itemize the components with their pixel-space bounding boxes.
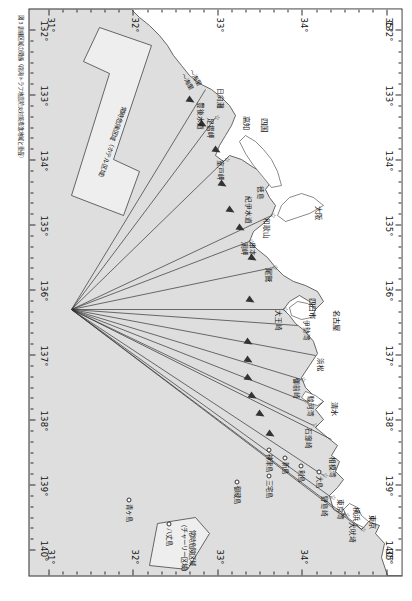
longitude-label: 136° (383, 280, 393, 301)
island-label: 新島 (280, 461, 289, 473)
longitude-label: 139° (38, 475, 48, 496)
longitude-tick-major (395, 549, 401, 550)
latitude-tick-minor (76, 571, 77, 574)
longitude-tick-minor (30, 452, 33, 453)
longitude-label: 136° (38, 280, 48, 301)
latitude-label: 33° (214, 549, 224, 564)
latitude-label: 32° (130, 549, 140, 564)
geographic-feature-label: 御前崎 (291, 377, 301, 398)
city-label: 横浜 (351, 506, 361, 520)
latitude-tick-minor (118, 9, 119, 12)
longitude-tick-minor (398, 278, 401, 279)
route-node-marker: ☆ (270, 264, 277, 270)
charlie-zone-label: 常時危険区域 （チャーリー区域） (179, 515, 195, 576)
longitude-tick-minor (30, 517, 33, 518)
longitude-tick-minor (30, 148, 33, 149)
latitude-tick-minor (203, 9, 204, 12)
island-marker (266, 473, 271, 478)
charlie-zone-line2: （チャーリー区域） (179, 515, 187, 576)
island-marker (266, 447, 271, 452)
latitude-tick-major (217, 569, 218, 575)
latitude-tick-minor (287, 9, 288, 12)
longitude-tick-minor (30, 332, 33, 333)
latitude-tick-minor (344, 571, 345, 574)
geographic-feature-label: 東京湾 (335, 498, 345, 519)
longitude-tick-minor (398, 430, 401, 431)
longitude-tick-minor (398, 495, 401, 496)
latitude-tick-minor (358, 571, 359, 574)
island-label: 青ヶ島 (124, 503, 133, 521)
longitude-tick-minor (398, 462, 401, 463)
latitude-tick-minor (104, 9, 105, 12)
latitude-tick-minor (118, 571, 119, 574)
latitude-tick-minor (90, 571, 91, 574)
city-label: 東京 (367, 514, 377, 528)
longitude-tick-minor (30, 278, 33, 279)
latitude-tick-minor (316, 9, 317, 12)
latitude-tick-major (386, 569, 387, 575)
longitude-tick-minor (30, 506, 33, 507)
longitude-label: 137° (38, 345, 48, 366)
latitude-label: 33° (214, 17, 224, 32)
longitude-tick-major (29, 549, 35, 550)
route-node-marker: ☆ (358, 526, 365, 532)
geographic-feature-label: 石廊崎 (303, 427, 313, 448)
longitude-tick-major (29, 224, 35, 225)
latitude-label: 34° (299, 549, 309, 564)
city-label: 大阪 (313, 205, 323, 219)
latitude-tick-major (133, 569, 134, 575)
longitude-label: 134° (38, 150, 48, 171)
longitude-tick-minor (30, 441, 33, 442)
longitude-tick-minor (30, 376, 33, 377)
longitude-tick-major (395, 484, 401, 485)
longitude-label: 133° (38, 85, 48, 106)
longitude-tick-minor (30, 527, 33, 528)
longitude-tick-minor (398, 40, 401, 41)
longitude-tick-minor (30, 397, 33, 398)
latitude-tick-minor (245, 571, 246, 574)
longitude-tick-minor (398, 300, 401, 301)
longitude-tick-minor (398, 473, 401, 474)
longitude-label: 133° (383, 85, 393, 106)
longitude-tick-minor (398, 408, 401, 409)
island-marker (166, 521, 171, 526)
latitude-tick-major (217, 9, 218, 15)
longitude-tick-minor (30, 72, 33, 73)
longitude-tick-minor (30, 408, 33, 409)
longitude-tick-minor (398, 235, 401, 236)
charlie-zone-line1: 常時危険区域 (187, 515, 195, 576)
city-label: 四国 (259, 117, 269, 131)
longitude-tick-minor (30, 365, 33, 366)
latitude-tick-major (386, 9, 387, 15)
longitude-tick-minor (398, 72, 401, 73)
latitude-tick-major (133, 9, 134, 15)
longitude-tick-minor (398, 170, 401, 171)
geographic-feature-label: 徳島 (255, 185, 265, 199)
longitude-tick-minor (398, 246, 401, 247)
longitude-tick-minor (398, 365, 401, 366)
geographic-feature-label: 室戸岬 (215, 159, 225, 180)
island-label: 三宅島 (264, 479, 273, 497)
longitude-tick-minor (30, 213, 33, 214)
longitude-tick-minor (398, 148, 401, 149)
latitude-tick-minor (259, 9, 260, 12)
longitude-label: 138° (383, 410, 393, 431)
longitude-tick-minor (30, 246, 33, 247)
latitude-tick-minor (203, 571, 204, 574)
latitude-tick-minor (344, 9, 345, 12)
longitude-tick-minor (398, 343, 401, 344)
geographic-feature-label: 野島崎 (319, 495, 329, 516)
island-label: 神津島 (264, 453, 273, 471)
geographic-feature-label: 相模湾 (327, 456, 337, 477)
latitude-tick-minor (175, 571, 176, 574)
longitude-tick-major (395, 289, 401, 290)
geographic-feature-label: 日向灘 (215, 87, 225, 108)
longitude-tick-major (395, 159, 401, 160)
longitude-tick-minor (30, 473, 33, 474)
longitude-label: 135° (38, 215, 48, 236)
latitude-tick-minor (372, 571, 373, 574)
longitude-tick-minor (30, 257, 33, 258)
longitude-tick-minor (30, 127, 33, 128)
longitude-tick-major (29, 94, 35, 95)
geographic-feature-label: 駿河湾 (305, 395, 315, 416)
